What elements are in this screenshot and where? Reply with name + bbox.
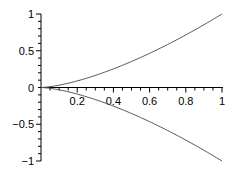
y-tick-label: −0.5: [12, 118, 34, 130]
curve-lower: [41, 88, 222, 162]
x-tick-label: 0.8: [178, 95, 193, 107]
y-tick-label: 1: [28, 8, 34, 20]
x-tick-label: 0.2: [70, 95, 85, 107]
y-tick-label: 0.5: [19, 45, 34, 57]
y-tick-label: 0: [28, 82, 34, 94]
line-chart: 0.20.40.60.8110.50−0.5−1: [0, 0, 234, 179]
x-tick-label: 0.6: [142, 95, 157, 107]
x-tick-label: 1: [219, 95, 225, 107]
y-tick-label: −1: [21, 155, 34, 167]
x-tick-label: 0.4: [106, 95, 121, 107]
curve-upper: [41, 14, 222, 88]
